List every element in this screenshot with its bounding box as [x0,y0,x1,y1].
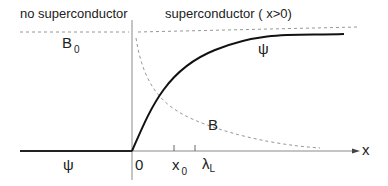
b0-label-sub: 0 [74,44,80,55]
b0-level-right [138,27,358,32]
lambda-label-main: λ [202,155,210,172]
psi-label-right: ψ [258,40,269,57]
x-axis-label: x [362,141,370,158]
superconductor-diagram: no superconductor superconductor ( x>0) … [0,0,388,186]
b-field-curve [136,38,320,148]
origin-label: 0 [135,156,143,173]
diagram-canvas [0,0,388,186]
psi-label-left: ψ [63,156,74,173]
x0-label-main: x [172,156,180,173]
x0-label: x0 [172,156,187,173]
lambda-label-sub: L [210,163,216,174]
psi-curve [132,34,344,151]
left-region-title: no superconductor [20,6,128,21]
b0-label-main: B [62,34,72,51]
x-axis-arrow-icon [352,149,360,154]
x0-label-sub: 0 [182,166,188,177]
lambda-l-label: λL [202,155,215,172]
b0-label: B0 [62,34,80,51]
b-curve-label: B [208,116,218,133]
right-region-title: superconductor ( x>0) [165,6,292,21]
